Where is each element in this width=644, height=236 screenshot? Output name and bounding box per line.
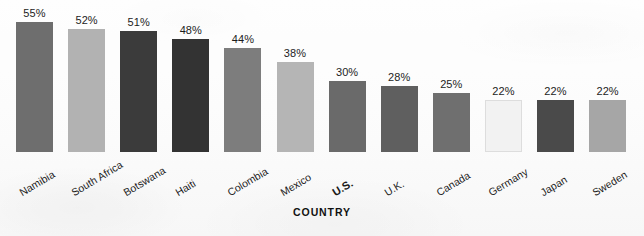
bar-value-label: 30% <box>336 66 358 78</box>
bar[interactable] <box>68 29 105 152</box>
x-axis-title: COUNTRY <box>0 206 644 218</box>
bar[interactable] <box>589 100 626 152</box>
x-axis-tick-label: U.S. <box>330 177 355 199</box>
bar[interactable] <box>120 31 157 152</box>
bar[interactable] <box>224 48 261 152</box>
bar-group: 22% <box>537 100 574 152</box>
bar-value-label: 52% <box>75 14 97 26</box>
bar-group: 22% <box>589 100 626 152</box>
bar-value-label: 38% <box>284 47 306 59</box>
bar[interactable] <box>433 93 470 152</box>
x-axis-tick-label: Namibia <box>17 168 57 198</box>
bar-group: 52% <box>68 29 105 152</box>
bar-chart-figure: 55%Namibia52%South Africa51%Botswana48%H… <box>0 0 644 236</box>
bar[interactable] <box>172 39 209 152</box>
bar-group: 38% <box>277 62 314 152</box>
bar-group: 25% <box>433 93 470 152</box>
x-axis-tick-label: Sweden <box>590 168 629 198</box>
bar-value-label: 55% <box>23 7 45 19</box>
plot-area: 55%Namibia52%South Africa51%Botswana48%H… <box>0 0 644 236</box>
bar-value-label: 51% <box>128 16 150 28</box>
x-axis-tick-label: Germany <box>486 165 530 198</box>
bar[interactable] <box>485 100 522 152</box>
bar-group: 28% <box>381 86 418 152</box>
bar[interactable] <box>329 81 366 152</box>
bar-value-label: 44% <box>232 33 254 45</box>
bar-value-label: 22% <box>492 85 514 97</box>
bar-value-label: 48% <box>180 24 202 36</box>
bar-value-label: 22% <box>544 85 566 97</box>
x-axis-tick-label: South Africa <box>69 158 125 198</box>
bar[interactable] <box>537 100 574 152</box>
bar-group: 48% <box>172 39 209 152</box>
bar[interactable] <box>381 86 418 152</box>
bar-value-label: 25% <box>440 78 462 90</box>
bar[interactable] <box>16 22 53 152</box>
bar-group: 30% <box>329 81 366 152</box>
x-axis-tick-label: Colombia <box>225 165 270 199</box>
bar-group: 44% <box>224 48 261 152</box>
bar-value-label: 28% <box>388 71 410 83</box>
bar-group: 22% <box>485 100 522 152</box>
x-axis-tick-label: Japan <box>538 173 569 198</box>
x-axis-tick-label: U.K. <box>382 177 406 198</box>
bar-value-label: 22% <box>596 85 618 97</box>
x-axis-tick-label: Botswana <box>121 164 167 198</box>
bar-group: 55% <box>16 22 53 152</box>
x-axis-tick-label: Mexico <box>278 171 313 199</box>
bar[interactable] <box>277 62 314 152</box>
x-axis-tick-label: Haiti <box>173 177 198 198</box>
bar-group: 51% <box>120 31 157 152</box>
x-axis-tick-label: Canada <box>434 169 472 199</box>
